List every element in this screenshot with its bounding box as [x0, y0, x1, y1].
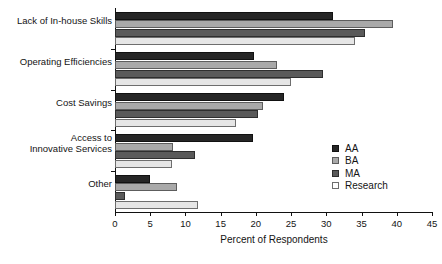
- bar-segment-ma: [115, 29, 365, 37]
- bar: [115, 192, 125, 200]
- category-label: Other: [0, 178, 112, 189]
- bar: [115, 183, 177, 191]
- bar: [115, 160, 172, 168]
- bar-segment-ma: [115, 192, 125, 200]
- bar-segment-ma: [115, 70, 323, 78]
- bar: [115, 52, 254, 60]
- bar-segment-aa: [115, 134, 253, 142]
- legend-label: AA: [345, 143, 358, 154]
- legend-swatch-research: [332, 182, 339, 189]
- x-axis-tick-label: 45: [419, 218, 442, 229]
- x-axis-tick-label: 25: [278, 218, 304, 229]
- bar: [115, 201, 198, 209]
- x-axis-tick: [221, 212, 222, 216]
- bar: [115, 70, 323, 78]
- y-axis-tick: [111, 49, 115, 50]
- x-axis-tick: [432, 212, 433, 216]
- x-axis-tick: [291, 212, 292, 216]
- x-axis-tick-label: 0: [102, 218, 128, 229]
- x-axis-tick: [150, 212, 151, 216]
- chart-legend: AABAMAResearch: [332, 142, 388, 192]
- bar-segment-research: [115, 160, 172, 168]
- bar: [115, 93, 284, 101]
- legend-label: BA: [345, 155, 358, 166]
- y-axis-tick: [111, 171, 115, 172]
- bar-segment-research: [115, 201, 198, 209]
- bar: [115, 61, 277, 69]
- bar: [115, 143, 173, 151]
- x-axis-tick-label: 5: [137, 218, 163, 229]
- x-axis-tick-label: 15: [208, 218, 234, 229]
- bar-segment-ba: [115, 20, 393, 28]
- bar: [115, 37, 355, 45]
- x-axis-tick: [326, 212, 327, 216]
- x-axis-title: Percent of Respondents: [115, 234, 433, 245]
- bar: [115, 151, 195, 159]
- bar: [115, 175, 150, 183]
- legend-item: MA: [332, 167, 388, 180]
- x-axis-tick-label: 10: [172, 218, 198, 229]
- bar: [115, 102, 263, 110]
- y-axis-tick: [111, 90, 115, 91]
- x-axis-tick-label: 30: [313, 218, 339, 229]
- category-label: Operating Efficiencies: [0, 56, 112, 67]
- y-axis-tick: [111, 130, 115, 131]
- category-label: Cost Savings: [0, 97, 112, 108]
- x-axis-tick: [256, 212, 257, 216]
- bar-segment-ba: [115, 61, 277, 69]
- bar-segment-aa: [115, 93, 284, 101]
- x-axis-tick-label: 20: [243, 218, 269, 229]
- category-label: Lack of In-house Skills: [0, 15, 112, 26]
- bar: [115, 119, 236, 127]
- bar-segment-research: [115, 78, 291, 86]
- bar-segment-aa: [115, 175, 150, 183]
- x-axis-tick-label: 40: [384, 218, 410, 229]
- x-axis-tick: [397, 212, 398, 216]
- bar-segment-aa: [115, 52, 254, 60]
- legend-swatch-ba: [332, 157, 339, 164]
- bar-segment-ba: [115, 143, 173, 151]
- x-axis-line: [115, 212, 433, 213]
- bar: [115, 20, 393, 28]
- bar: [115, 78, 291, 86]
- bar-segment-ma: [115, 151, 195, 159]
- legend-item: Research: [332, 180, 388, 193]
- legend-item: AA: [332, 142, 388, 155]
- bar-segment-aa: [115, 12, 333, 20]
- legend-label: Research: [345, 180, 388, 191]
- legend-swatch-ma: [332, 170, 339, 177]
- legend-swatch-aa: [332, 145, 339, 152]
- bar-segment-ba: [115, 183, 177, 191]
- bar-segment-ba: [115, 102, 263, 110]
- bar: [115, 110, 258, 118]
- legend-label: MA: [345, 168, 360, 179]
- x-axis-tick-label: 35: [349, 218, 375, 229]
- bar-segment-ma: [115, 110, 258, 118]
- x-axis-tick: [115, 212, 116, 216]
- x-axis-tick: [185, 212, 186, 216]
- bar: [115, 12, 333, 20]
- category-label-group: Lack of In-house SkillsOperating Efficie…: [0, 0, 112, 204]
- bar: [115, 29, 365, 37]
- legend-item: BA: [332, 155, 388, 168]
- bar-segment-research: [115, 119, 236, 127]
- bar: [115, 134, 253, 142]
- category-label: Access to Innovative Services: [0, 132, 112, 154]
- x-axis-tick: [362, 212, 363, 216]
- bar-segment-research: [115, 37, 355, 45]
